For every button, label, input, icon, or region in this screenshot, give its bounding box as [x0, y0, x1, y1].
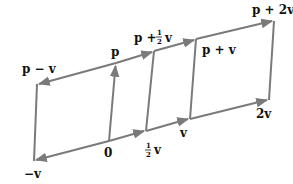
label-p-plus-half-v: p + 1 2 v: [134, 28, 173, 46]
half-v-numerator: 1: [146, 141, 151, 150]
arrow-zero-to-neg-v: [36, 141, 109, 160]
label-half-v: 1 2 v: [145, 141, 162, 159]
parametric-line-diagram: −v 0 1 2 v v 2v p − v p p + 1 2 v p + v …: [0, 0, 293, 184]
arrow-p-plus-v-to-p-plus-two-v: [196, 21, 272, 39]
label-two-v: 2v: [256, 107, 272, 121]
label-v: v: [179, 126, 188, 140]
label-p-plus-v: p + v: [202, 43, 237, 57]
edge-half-v-to-p-plus-half-v: [146, 51, 154, 131]
p-plus-half-v-prefix: p +: [134, 31, 157, 45]
p-plus-half-v-var: v: [164, 31, 173, 45]
edge-neg-v-to-p-minus-v: [34, 84, 37, 161]
label-p-minus-v: p − v: [22, 62, 57, 76]
label-neg-v: −v: [24, 167, 42, 181]
arrow-zero-to-half-v: [109, 131, 144, 141]
half-v-denominator: 2: [146, 150, 151, 159]
edge-two-v-to-p-plus-two-v: [269, 21, 274, 100]
arrow-zero-to-p: [109, 66, 116, 141]
label-p: p: [111, 45, 119, 59]
arrow-p-to-p-plus-half-v: [116, 52, 152, 63]
label-zero: 0: [104, 146, 112, 160]
label-p-plus-two-v: p + 2v: [252, 3, 293, 17]
p-plus-half-v-numerator: 1: [157, 28, 162, 37]
edge-v-to-p-plus-v: [190, 39, 196, 119]
p-plus-half-v-denominator: 2: [157, 37, 162, 46]
half-v-var: v: [153, 143, 162, 157]
